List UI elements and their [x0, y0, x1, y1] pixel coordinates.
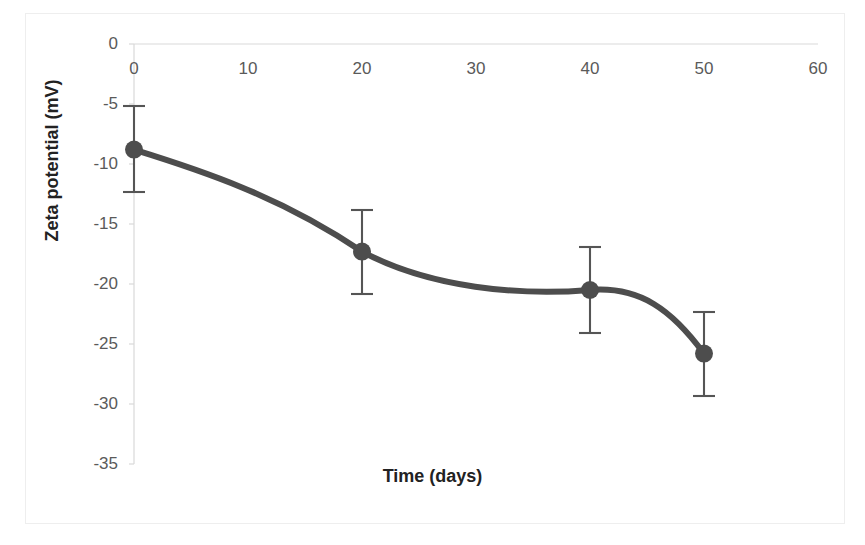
chart-figure: 0 -5 -10 -15 -20 -25 -30 -35 0 10 20 30 … — [0, 0, 865, 545]
xtick-label-20: 20 — [342, 60, 382, 77]
ytick-label-m5: -5 — [78, 95, 118, 112]
ytick-label-m25: -25 — [70, 335, 118, 352]
xtick-label-60: 60 — [798, 60, 838, 77]
xtick-label-0: 0 — [114, 60, 154, 77]
ytick-label-m30: -30 — [70, 395, 118, 412]
x-axis-title: Time (days) — [0, 466, 865, 487]
xtick-label-10: 10 — [228, 60, 268, 77]
xtick-label-40: 40 — [570, 60, 610, 77]
ytick-label-m20: -20 — [70, 275, 118, 292]
ytick-label-m10: -10 — [70, 155, 118, 172]
error-bars — [123, 106, 715, 396]
ytick-label-0: 0 — [78, 35, 118, 52]
chart-canvas — [0, 0, 865, 545]
data-series-line — [134, 150, 704, 354]
ytick-label-m15: -15 — [70, 215, 118, 232]
xtick-label-50: 50 — [684, 60, 724, 77]
xtick-label-30: 30 — [456, 60, 496, 77]
y-axis-title: Zeta potential (mV) — [42, 61, 63, 261]
